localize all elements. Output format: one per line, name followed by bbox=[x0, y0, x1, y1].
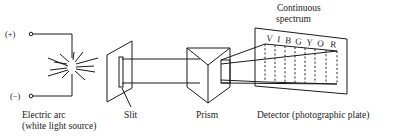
detector-label: Detector (photographic plate) bbox=[257, 110, 369, 121]
source-label-line2: (white light source) bbox=[22, 121, 96, 132]
spectrum-letter-o: O bbox=[317, 38, 325, 49]
negative-wire bbox=[33, 74, 72, 96]
electric-arc-source: (+) (−) bbox=[5, 29, 98, 101]
prism bbox=[187, 48, 230, 103]
spectrum-letter-g: G bbox=[295, 36, 303, 47]
positive-terminal-label: (+) bbox=[5, 29, 16, 39]
spectrum-letter-y: Y bbox=[306, 37, 314, 48]
positive-terminal-icon bbox=[29, 32, 33, 36]
arc-spark-icon bbox=[48, 52, 98, 80]
spectrum-letter-r: R bbox=[330, 39, 338, 50]
spectrum-letter-v: V bbox=[266, 33, 274, 44]
negative-terminal-label: (−) bbox=[10, 91, 21, 101]
spectrum-letter-b: B bbox=[285, 35, 293, 46]
spectrum-letter-i: I bbox=[277, 34, 282, 44]
spectrum-label-line2: spectrum bbox=[276, 14, 311, 24]
spectroscope-diagram: (+) (−) bbox=[0, 0, 394, 137]
spectrum-dividers bbox=[265, 44, 337, 84]
positive-wire bbox=[33, 34, 72, 58]
light-beam bbox=[122, 59, 195, 83]
source-label-line1: Electric arc bbox=[22, 110, 66, 120]
slit-plate bbox=[107, 41, 132, 107]
spectrum-label-line1: Continuous bbox=[277, 3, 321, 13]
dispersed-rays bbox=[221, 44, 337, 84]
prism-label: Prism bbox=[196, 110, 219, 120]
negative-terminal-icon bbox=[29, 94, 33, 98]
slit-label: Slit bbox=[124, 110, 138, 120]
